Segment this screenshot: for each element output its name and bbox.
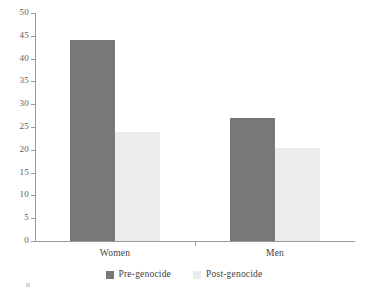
category-label-women: Women — [75, 246, 155, 260]
x-axis-group-separator — [195, 241, 196, 246]
y-axis-tick-mark — [31, 104, 35, 105]
y-axis-tick-mark — [31, 59, 35, 60]
y-axis-tick-label: 50 — [20, 6, 29, 19]
legend-item-post: Post-genocide — [193, 268, 262, 281]
legend-item-pre: Pre-genocide — [106, 268, 172, 281]
y-axis-tick-mark — [31, 241, 35, 242]
y-axis-tick-label: 10 — [20, 188, 29, 201]
y-axis-tick-label: 30 — [20, 97, 29, 110]
y-axis-tick-mark — [31, 36, 35, 37]
y-axis-tick-label: 0 — [24, 234, 29, 247]
y-axis-tick-mark — [31, 13, 35, 14]
chart-legend: Pre-genocidePost-genocide — [0, 268, 368, 281]
y-axis-tick-mark — [31, 218, 35, 219]
y-axis-tick-label: 25 — [20, 120, 29, 133]
legend-swatch-icon — [193, 271, 201, 279]
y-axis-tick-mark — [31, 173, 35, 174]
bar-chart: 05101520253035404550 WomenMen Pre-genoci… — [0, 0, 368, 293]
legend-label: Pre-genocide — [119, 268, 172, 281]
y-axis-tick-mark — [31, 127, 35, 128]
legend-label: Post-genocide — [206, 268, 262, 281]
category-label-men: Men — [235, 246, 315, 260]
y-axis-tick-label: 35 — [20, 74, 29, 87]
y-axis-tick-label: 20 — [20, 143, 29, 156]
bar-women-post-genocide — [115, 132, 160, 241]
y-axis-tick-mark — [31, 195, 35, 196]
y-axis-tick-label: 5 — [24, 211, 29, 224]
y-axis-tick-mark — [31, 150, 35, 151]
y-axis-tick-label: 40 — [20, 52, 29, 65]
y-axis-tick-label: 15 — [20, 166, 29, 179]
y-axis-tick-label: 45 — [20, 29, 29, 42]
legend-swatch-icon — [106, 271, 114, 279]
plot-area — [35, 13, 355, 241]
bar-women-pre-genocide — [70, 40, 115, 241]
bar-men-post-genocide — [275, 148, 320, 241]
page-corner-mark — [26, 283, 30, 287]
y-axis-tick-mark — [31, 81, 35, 82]
bar-men-pre-genocide — [230, 118, 275, 241]
